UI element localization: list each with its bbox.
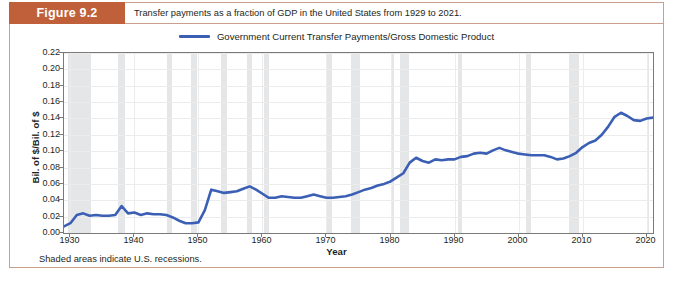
x-axis-tick-mark [69, 233, 70, 237]
y-axis-tick-mark [59, 101, 63, 102]
y-axis-tick-mark [59, 199, 63, 200]
x-axis-tick-mark [390, 233, 391, 237]
y-axis-tick-mark [59, 216, 63, 217]
y-axis-tick-mark [59, 183, 63, 184]
y-axis-tick-mark [59, 134, 63, 135]
y-axis-tick-mark [59, 117, 63, 118]
y-axis-tick-mark [59, 232, 63, 233]
y-axis-tick-label: 0.22 [34, 47, 60, 57]
x-axis-tick-mark [133, 233, 134, 237]
chart-area: 0.000.020.040.060.080.100.120.140.160.18… [0, 0, 673, 282]
y-axis-tick-label: 0.00 [34, 227, 60, 237]
y-axis-tick-mark [59, 150, 63, 151]
x-axis-tick-mark [582, 233, 583, 237]
y-axis-tick-mark [59, 85, 63, 86]
x-axis-tick-mark [197, 233, 198, 237]
gridline-horizontal [64, 233, 653, 234]
plot-area [63, 52, 654, 234]
y-axis-tick-mark [59, 52, 63, 53]
x-axis-tick-mark [518, 233, 519, 237]
x-axis-tick-mark [454, 233, 455, 237]
x-axis-tick-mark [325, 233, 326, 237]
y-axis-tick-label: 0.20 [34, 63, 60, 73]
x-axis-tick-mark [261, 233, 262, 237]
y-axis-tick-mark [59, 167, 63, 168]
recession-footnote: Shaded areas indicate U.S. recessions. [39, 254, 202, 264]
y-axis-title: Bil. of $/Bil. of $ [30, 88, 41, 208]
series-line-transfer-payments-gdp [64, 53, 653, 233]
y-axis-tick-label: 0.02 [34, 211, 60, 221]
x-axis-tick-mark [646, 233, 647, 237]
y-axis-tick-mark [59, 68, 63, 69]
